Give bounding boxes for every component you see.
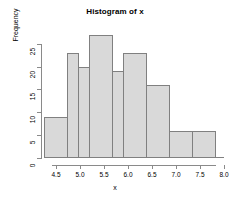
plot-baseline [44,157,224,158]
y-axis-tick-label: 15 [29,88,36,106]
y-axis-tick-label: 5 [29,134,36,152]
histogram-bar [123,53,147,158]
y-axis-tick-label: 10 [29,111,36,129]
x-axis-tick-label: 4.5 [46,171,66,178]
histogram-plot: Histogram of x 0510152025 4.55.05.56.06.… [0,0,230,202]
chart-title: Histogram of x [0,7,230,16]
x-axis-tick-label: 5.0 [70,171,90,178]
x-axis-tick-label: 7.0 [166,171,186,178]
y-axis-label: Frequency [12,0,19,60]
x-axis-tick-label: 8.0 [214,171,230,178]
x-axis-tick [80,165,81,169]
histogram-bar [89,35,113,158]
plot-panel [44,30,224,158]
histogram-bar [44,117,68,158]
x-axis-tick-label: 6.0 [118,171,138,178]
y-axis-tick [37,158,41,159]
x-axis-label: x [0,184,230,191]
y-axis-tick [37,44,41,45]
x-axis-tick-label: 5.5 [94,171,114,178]
y-axis-tick [37,135,41,136]
x-axis-tick [56,165,57,169]
y-axis-line [41,44,42,159]
y-axis-tick-label: 20 [29,65,36,83]
x-axis-tick-label: 6.5 [142,171,162,178]
x-axis-tick [176,165,177,169]
y-axis-tick [37,67,41,68]
x-axis-tick [152,165,153,169]
y-axis-tick [37,89,41,90]
x-axis-line [52,165,216,166]
x-axis-tick-label: 7.5 [190,171,210,178]
histogram-bar [192,131,216,158]
bar-series [44,30,224,158]
histogram-bar [146,85,170,158]
x-axis-tick [104,165,105,169]
y-axis-tick-label: 0 [29,157,36,175]
y-axis-tick [37,112,41,113]
x-axis-tick [200,165,201,169]
y-axis-tick-label: 25 [29,42,36,60]
histogram-bar [169,131,193,158]
x-axis-tick [224,165,225,169]
x-axis-tick [128,165,129,169]
